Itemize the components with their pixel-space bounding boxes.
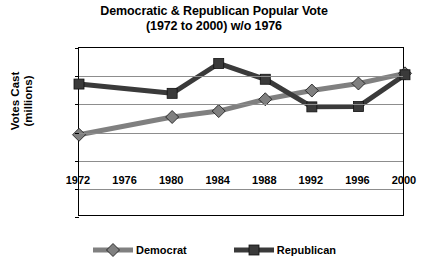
gridline — [79, 76, 403, 77]
y-tick-mark — [75, 133, 79, 134]
legend-label: Democrat — [136, 244, 187, 256]
chart-legend: DemocratRepublican — [0, 243, 428, 257]
y-tick-mark — [75, 161, 79, 162]
gridline — [79, 104, 403, 105]
x-tick-label: 2000 — [381, 174, 427, 186]
x-tick-label: 1984 — [195, 174, 241, 186]
chart-title-line2: (1972 to 2000) w/o 1976 — [0, 19, 428, 34]
y-tick-mark — [75, 104, 79, 105]
x-tick-label: 1980 — [148, 174, 194, 186]
y-tick-mark — [75, 217, 79, 218]
y-tick-mark — [75, 76, 79, 77]
data-point-democrat — [305, 84, 318, 97]
x-tick-label: 1996 — [334, 174, 380, 186]
legend-swatch-square-icon — [233, 243, 275, 257]
data-point-democrat — [73, 128, 86, 141]
y-axis-label-line2: (millions) — [22, 41, 35, 161]
data-point-republican — [400, 70, 410, 80]
y-axis-label-line1: Votes Cast — [9, 41, 22, 161]
x-tick-label: 1976 — [102, 174, 148, 186]
gridline — [79, 161, 403, 162]
data-point-democrat — [166, 111, 179, 124]
gridline — [79, 133, 403, 134]
data-point-republican — [167, 88, 177, 98]
legend-swatch-diamond-icon — [92, 243, 134, 257]
data-point-republican — [214, 58, 224, 68]
legend-item-democrat[interactable]: Democrat — [92, 243, 187, 257]
data-point-democrat — [352, 77, 365, 90]
legend-label: Republican — [277, 244, 336, 256]
gridline — [79, 189, 403, 190]
data-point-democrat — [212, 105, 225, 118]
x-tick-label: 1972 — [55, 174, 101, 186]
y-tick-mark — [75, 48, 79, 49]
chart-title-line1: Democratic & Republican Popular Vote — [100, 4, 327, 18]
plot-area — [78, 47, 404, 216]
y-tick-mark — [75, 189, 79, 190]
y-axis-label: Votes Cast (millions) — [9, 41, 35, 161]
x-tick-label: 1992 — [288, 174, 334, 186]
x-tick-label: 1988 — [241, 174, 287, 186]
data-point-republican — [74, 79, 84, 89]
chart-title: Democratic & Republican Popular Vote (19… — [0, 4, 428, 33]
data-point-republican — [353, 102, 363, 112]
legend-item-republican[interactable]: Republican — [233, 243, 336, 257]
chart-container: Democratic & Republican Popular Vote (19… — [0, 0, 428, 264]
